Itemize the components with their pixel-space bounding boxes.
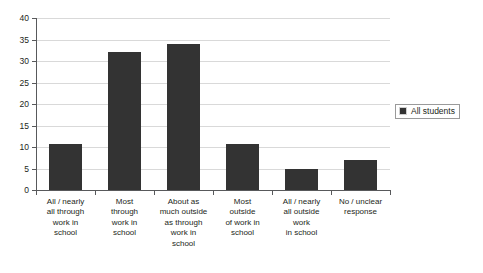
y-axis-label: 15 xyxy=(20,121,29,130)
legend-label-all-students: All students xyxy=(411,107,455,116)
y-axis-tick xyxy=(32,61,36,62)
y-axis-label: 10 xyxy=(20,143,29,152)
bar xyxy=(344,160,377,190)
bar xyxy=(108,52,141,190)
gridline xyxy=(36,169,390,170)
bar xyxy=(226,144,259,190)
y-axis-tick xyxy=(32,147,36,148)
y-axis-tick xyxy=(32,40,36,41)
gridline xyxy=(36,126,390,127)
x-axis-category-label: All / nearlyall throughwork inschool xyxy=(36,197,95,239)
x-axis-category-label: Mostthroughwork inschool xyxy=(95,197,154,239)
x-axis-category-label: No / unclearresponse xyxy=(331,197,390,218)
y-axis-label: 35 xyxy=(20,35,29,44)
gridline xyxy=(36,147,390,148)
x-axis-category-label: Mostoutsideof work inschool xyxy=(213,197,272,239)
y-axis-tick xyxy=(32,83,36,84)
y-axis-label: 0 xyxy=(24,186,29,195)
x-axis-category-label: About asmuch outsideas throughwork insch… xyxy=(154,197,213,249)
y-axis-label: 5 xyxy=(24,164,29,173)
gridline xyxy=(36,104,390,105)
gridline xyxy=(36,61,390,62)
x-axis-line xyxy=(36,190,390,191)
x-axis-tick xyxy=(390,190,391,195)
y-axis-tick xyxy=(32,169,36,170)
bar-chart: 0510152025303540 All / nearlyall through… xyxy=(0,0,483,273)
y-axis-label: 40 xyxy=(20,14,29,23)
y-axis-tick xyxy=(32,126,36,127)
bar xyxy=(167,44,200,190)
legend-swatch-all-students xyxy=(399,107,407,115)
y-axis-label: 30 xyxy=(20,57,29,66)
y-axis-line: 0510152025303540 xyxy=(36,18,37,191)
x-axis-category-label: All / nearlyall outsideworkin school xyxy=(272,197,331,239)
chart-legend: All students xyxy=(395,104,460,119)
y-axis-tick xyxy=(32,104,36,105)
x-axis-category-labels: All / nearlyall throughwork inschoolMost… xyxy=(36,197,390,269)
bar xyxy=(49,144,82,190)
y-axis-label: 25 xyxy=(20,78,29,87)
gridline xyxy=(36,18,390,19)
plot-area xyxy=(36,18,390,190)
gridline xyxy=(36,83,390,84)
bar xyxy=(285,169,318,191)
y-axis-label: 20 xyxy=(20,100,29,109)
y-axis-tick xyxy=(32,18,36,19)
gridline xyxy=(36,40,390,41)
